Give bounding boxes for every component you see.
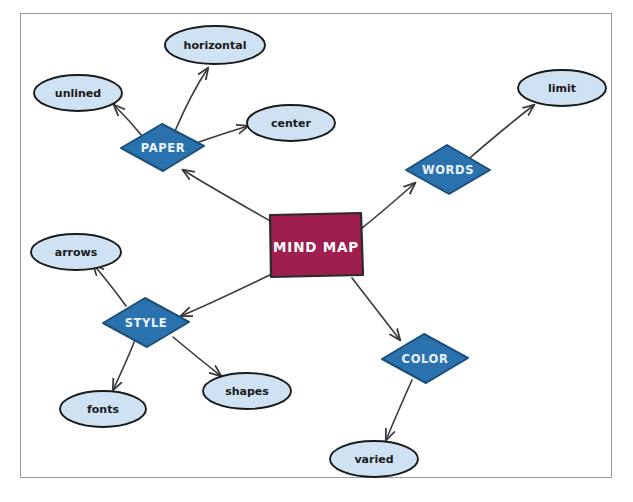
center-leaf-label: center bbox=[271, 117, 312, 130]
node-branch-color[interactable]: COLOR bbox=[382, 334, 468, 383]
node-center-mind-map[interactable]: MIND MAP bbox=[270, 213, 363, 277]
node-branch-paper[interactable]: PAPER bbox=[121, 124, 204, 171]
horizontal-label: horizontal bbox=[184, 39, 247, 52]
connector-color-varied bbox=[386, 380, 412, 440]
style-label: STYLE bbox=[125, 316, 168, 330]
connector-center-style bbox=[181, 272, 276, 316]
varied-label: varied bbox=[354, 453, 393, 466]
color-label: COLOR bbox=[402, 352, 449, 366]
connector-paper-horizontal bbox=[175, 68, 208, 131]
node-leaf-arrows[interactable]: arrows bbox=[31, 234, 121, 270]
node-leaf-horizontal[interactable]: horizontal bbox=[165, 26, 265, 64]
node-leaf-varied[interactable]: varied bbox=[330, 441, 418, 477]
arrows-label: arrows bbox=[55, 246, 98, 259]
node-leaf-center[interactable]: center bbox=[247, 105, 335, 141]
node-leaf-unlined[interactable]: unlined bbox=[34, 75, 122, 111]
connector-style-arrows bbox=[93, 264, 126, 306]
unlined-label: unlined bbox=[55, 87, 101, 100]
paper-label: PAPER bbox=[141, 141, 185, 155]
connector-words-limit bbox=[464, 105, 534, 163]
connector-center-paper bbox=[183, 170, 272, 222]
connector-style-shapes bbox=[173, 337, 221, 376]
node-leaf-fonts[interactable]: fonts bbox=[60, 391, 146, 427]
fonts-label: fonts bbox=[87, 403, 119, 416]
words-label: WORDS bbox=[422, 163, 474, 177]
mind-map-svg: MIND MAP PAPER WORDS STYLE COLOR unlined bbox=[0, 0, 633, 502]
limit-label: limit bbox=[548, 82, 576, 95]
node-leaf-limit[interactable]: limit bbox=[518, 70, 606, 106]
center-label: MIND MAP bbox=[273, 239, 359, 255]
connector-paper-center-leaf bbox=[199, 126, 248, 142]
connector-style-fonts bbox=[113, 340, 135, 390]
connector-center-color bbox=[352, 278, 400, 340]
node-leaf-shapes[interactable]: shapes bbox=[203, 373, 291, 409]
connector-paper-unlined bbox=[114, 105, 143, 137]
connector-center-words bbox=[362, 183, 415, 228]
shapes-label: shapes bbox=[225, 385, 269, 398]
diagram-canvas: MIND MAP PAPER WORDS STYLE COLOR unlined bbox=[0, 0, 633, 502]
